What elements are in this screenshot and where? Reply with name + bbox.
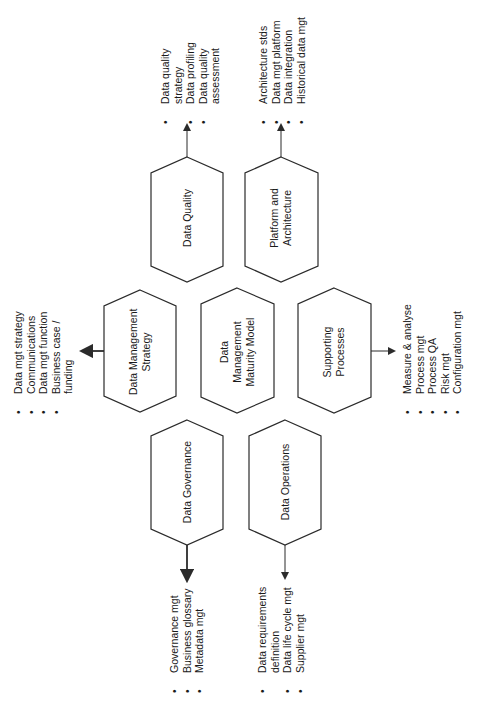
list-item: Business glossary [181, 588, 194, 695]
list-data-operations: Data requirements definition Data life c… [256, 587, 306, 695]
list-item: Configuration mgt [451, 304, 464, 416]
label-line: Data Governance [181, 438, 194, 526]
label-line: Platform and [268, 180, 281, 256]
list-item: Process mgt [414, 304, 427, 416]
list-item: Process QA [426, 304, 439, 416]
list-item: Data quality [159, 42, 172, 126]
label-line: Management [231, 309, 244, 395]
list-platform-architecture: Architecture stds Data mgt platform Data… [257, 17, 307, 126]
list-data-governance: Governance mgt Business glossary Metadat… [168, 588, 206, 695]
list-data-quality: Data quality strategy Data profiling Dat… [159, 42, 222, 126]
list-item: Data mgt strategy [12, 311, 25, 416]
list-item: Data life cycle mgt [281, 587, 294, 695]
list-item: Data mgt platform [270, 17, 283, 126]
list-item: Business case / [50, 311, 63, 416]
list-item: Data profiling [184, 42, 197, 126]
list-item: Measure & analyse [401, 304, 414, 416]
list-item: Data mgt function [37, 311, 50, 416]
label-data-management-strategy: Data Management Strategy [127, 309, 153, 395]
label-line: Supporting [321, 309, 334, 395]
label-line: Maturity Model [244, 309, 257, 395]
label-line: Data [218, 309, 231, 395]
list-item: Communications [25, 311, 38, 416]
list-item: Architecture stds [257, 17, 270, 126]
label-line: Data Management [127, 309, 140, 395]
list-item-continuation: strategy [172, 42, 185, 126]
list-supporting-processes: Measure & analyse Process mgt Process QA… [401, 304, 464, 416]
list-item: Data quality [197, 42, 210, 126]
label-supporting-processes: Supporting Processes [321, 309, 347, 395]
list-item: Historical data mgt [295, 17, 308, 126]
label-line: Data Operations [279, 438, 292, 526]
list-item: Data integration [282, 17, 295, 126]
label-platform-architecture: Platform and Architecture [268, 180, 294, 256]
label-data-operations: Data Operations [279, 438, 292, 526]
label-data-governance: Data Governance [181, 438, 194, 526]
list-item: Supplier mgt [294, 587, 307, 695]
list-item: Data requirements [256, 587, 269, 695]
list-item: Metadata mgt [193, 588, 206, 695]
label-data-quality: Data Quality [181, 180, 194, 256]
list-item: Governance mgt [168, 588, 181, 695]
label-line: Data Quality [181, 180, 194, 256]
list-data-management-strategy: Data mgt strategy Communications Data mg… [12, 311, 75, 416]
label-line: Architecture [281, 180, 294, 256]
list-item: Risk mgt [439, 304, 452, 416]
label-line: Strategy [140, 309, 153, 395]
list-item-continuation: funding [62, 311, 75, 416]
label-maturity-model: Data Management Maturity Model [218, 309, 257, 395]
list-item-continuation: definition [269, 587, 282, 695]
label-line: Processes [334, 309, 347, 395]
list-item-continuation: assessment [209, 42, 222, 126]
